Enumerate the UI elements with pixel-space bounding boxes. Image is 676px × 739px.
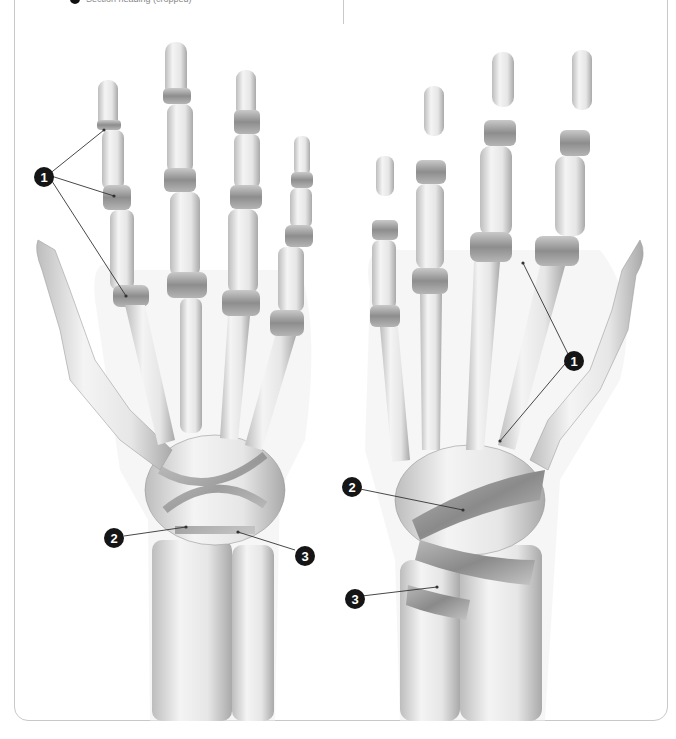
svg-text:2: 2	[348, 480, 355, 495]
svg-text:3: 3	[351, 592, 358, 607]
right-callout-1: 1	[564, 351, 584, 371]
left-callout-2: 2	[104, 528, 124, 548]
right-callout-3: 3	[345, 589, 365, 609]
left-radius	[152, 540, 232, 721]
svg-text:1: 1	[40, 170, 47, 185]
left-callout-3: 3	[295, 546, 315, 566]
right-ulna	[400, 560, 460, 721]
svg-text:1: 1	[570, 354, 577, 369]
left-callout-1: 1	[34, 167, 54, 187]
left-ulna	[232, 545, 274, 721]
svg-text:3: 3	[301, 549, 308, 564]
right-callout-2: 2	[342, 477, 362, 497]
right-hand	[365, 50, 643, 721]
svg-text:2: 2	[110, 531, 117, 546]
left-hand	[37, 42, 313, 721]
hand-illustration: 1 2 3 1 2 3	[0, 0, 676, 739]
